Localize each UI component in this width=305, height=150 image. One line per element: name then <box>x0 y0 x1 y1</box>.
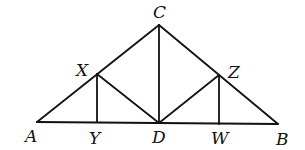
label-X: X <box>74 60 89 80</box>
segment-DZ <box>159 75 219 123</box>
diagram-segments <box>37 25 278 124</box>
label-D: D <box>151 127 166 147</box>
label-A: A <box>23 126 37 146</box>
label-C: C <box>153 2 166 22</box>
truss-diagram: C X Z A Y D W B <box>0 0 305 150</box>
label-W: W <box>211 128 230 148</box>
label-Z: Z <box>227 62 241 82</box>
diagram-labels: C X Z A Y D W B <box>23 2 289 149</box>
label-Y: Y <box>89 128 102 148</box>
label-B: B <box>275 129 289 149</box>
segment-XD <box>97 74 159 123</box>
